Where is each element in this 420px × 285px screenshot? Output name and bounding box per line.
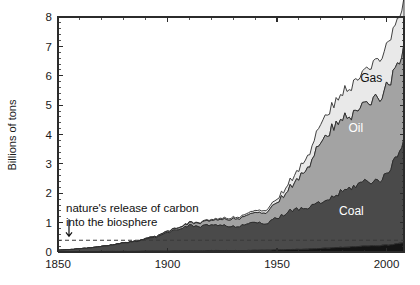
y-tick-label: 7 (46, 41, 52, 53)
chart-canvas: 0123456781850190019502000 Billions of to… (0, 0, 420, 285)
y-tick-label: 5 (46, 99, 52, 111)
series-label-coal: Coal (339, 204, 364, 218)
x-tick-label: 1950 (264, 258, 290, 270)
x-tick-label: 2000 (374, 258, 400, 270)
y-tick-label: 8 (46, 11, 52, 23)
annotation-line-1: nature's release of carbon (66, 202, 199, 214)
x-tick-label: 1850 (45, 258, 71, 270)
x-tick-label: 1900 (155, 258, 181, 270)
y-tick-label: 2 (46, 187, 52, 199)
y-tick-label: 4 (46, 129, 53, 141)
y-tick-label: 1 (46, 217, 52, 229)
annotation-line-2: into the biosphere (66, 216, 157, 228)
y-axis-label: Billions of tons (6, 99, 18, 170)
carbon-emissions-stacked-area-chart: 0123456781850190019502000 Billions of to… (0, 0, 420, 285)
y-tick-label: 0 (46, 246, 52, 258)
y-tick-label: 6 (46, 70, 52, 82)
y-tick-label: 3 (46, 158, 52, 170)
series-label-oil: Oil (348, 121, 363, 135)
series-label-gas: Gas (360, 71, 382, 85)
